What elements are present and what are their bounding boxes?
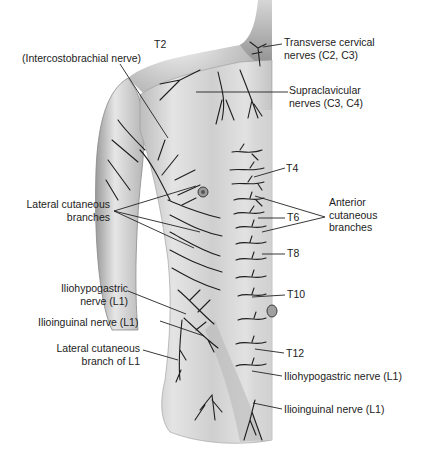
label-line: Lateral cutaneous — [20, 342, 140, 355]
label-iliohypogastric-nerve-right: Iliohypogastric nerve (L1) — [284, 370, 402, 383]
label-t4: T4 — [286, 162, 298, 175]
label-iliohypogastric-nerve-left: Iliohypogastric nerve (L1) — [20, 282, 128, 307]
label-transverse-cervical-nerves: Transverse cervical nerves (C2, C3) — [284, 36, 375, 61]
label-t6: T6 — [287, 211, 299, 224]
label-t8: T8 — [287, 247, 299, 260]
label-line: Supraclavicular — [289, 84, 363, 97]
label-line: Lateral cutaneous — [8, 198, 110, 211]
label-line: Transverse cervical — [284, 36, 375, 49]
label-intercostobrachial-nerve: (Intercostobrachial nerve) — [22, 52, 141, 65]
label-line: nerves (C3, C4) — [289, 97, 363, 110]
label-line: cutaneous — [329, 209, 377, 222]
label-t12: T12 — [286, 347, 304, 360]
nipple-center — [201, 190, 205, 194]
label-anterior-cutaneous-branches: Anterior cutaneous branches — [329, 196, 377, 234]
label-ilioinguinal-nerve-left: Ilioinguinal nerve (L1) — [38, 316, 138, 329]
umbilicus — [267, 305, 277, 317]
label-lateral-cutaneous-branch-l1: Lateral cutaneous branch of L1 — [20, 342, 140, 367]
label-supraclavicular-nerves: Supraclavicular nerves (C3, C4) — [289, 84, 363, 109]
label-line: Anterior — [329, 196, 377, 209]
label-line: branch of L1 — [20, 355, 140, 368]
label-ilioinguinal-nerve-right: Ilioinguinal nerve (L1) — [284, 403, 384, 416]
label-t2: T2 — [154, 38, 166, 51]
torso-shape — [140, 60, 272, 443]
label-line: nerves (C2, C3) — [284, 49, 375, 62]
label-line: Iliohypogastric — [20, 282, 128, 295]
label-line: nerve (L1) — [20, 295, 128, 308]
label-lateral-cutaneous-branches: Lateral cutaneous branches — [8, 198, 110, 223]
label-line: branches — [329, 221, 377, 234]
label-line: branches — [8, 211, 110, 224]
label-t10: T10 — [287, 288, 305, 301]
